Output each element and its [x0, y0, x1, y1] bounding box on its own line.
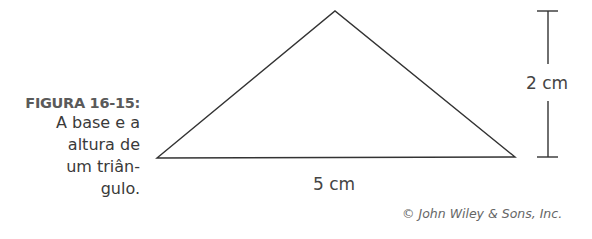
triangle-diagram — [0, 0, 592, 239]
base-label: 5 cm — [313, 174, 355, 194]
height-label: 2 cm — [526, 73, 568, 93]
copyright-credit: © John Wiley & Sons, Inc. — [402, 206, 562, 221]
triangle — [157, 11, 515, 158]
